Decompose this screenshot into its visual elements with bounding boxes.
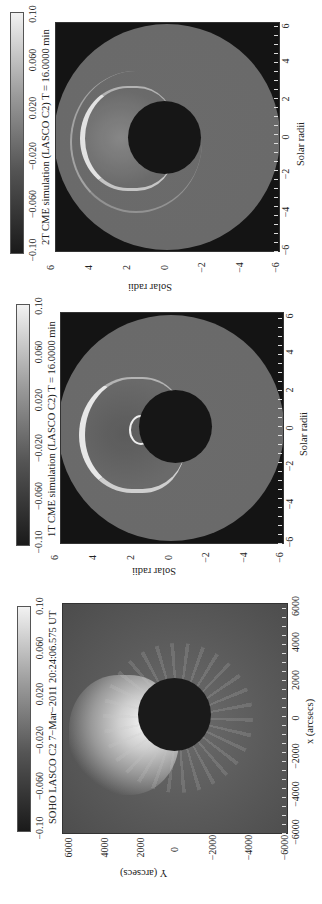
x-tick: 2 — [284, 388, 295, 393]
colorbar-tick: 0.020 — [33, 389, 44, 412]
x-tick: −4000 — [290, 781, 301, 807]
colorbar — [17, 606, 31, 832]
colorbar-tick: −0.020 — [27, 142, 38, 170]
occulting-disk — [128, 101, 201, 174]
colorbar-tick: −0.10 — [34, 816, 45, 839]
colorbar-tick: 0.020 — [27, 97, 38, 120]
colorbar-tick: −0.10 — [33, 530, 44, 553]
colorbar — [10, 12, 24, 254]
occulting-disk — [139, 390, 212, 463]
x-tick: 4 — [280, 59, 291, 64]
x-tick: −2 — [284, 461, 295, 472]
colorbar-tick: −0.020 — [33, 434, 44, 462]
x-axis-label: Solar radii — [295, 122, 306, 166]
colorbar — [16, 304, 30, 546]
x-axis-label: x (arcsecs) — [304, 699, 315, 744]
panel-title: SOHO LASCO C2 7−Mar−2011 20:24:06.575 UT — [47, 611, 58, 824]
x-tick: −4 — [280, 207, 291, 218]
occulting-disk — [138, 678, 211, 751]
colorbar-tick: −0.060 — [33, 482, 44, 510]
panel-title: 2T CME simulation (LASCO C2) T = 16.0000… — [40, 29, 51, 245]
colorbar-tick: 0.060 — [34, 637, 45, 660]
x-tick: 2000 — [290, 670, 301, 690]
plot-area — [55, 22, 280, 252]
plot-area — [60, 312, 284, 544]
colorbar-tick: 0.10 — [33, 297, 44, 315]
panel-title: 1T CME simulation (LASCO C2) T = 16.0000… — [46, 321, 57, 537]
x-tick: −6 — [284, 537, 295, 548]
colorbar-tick: −0.10 — [27, 238, 38, 261]
x-tick-marks — [274, 24, 278, 252]
x-axis-label: Solar radii — [298, 412, 309, 456]
x-tick: 6 — [284, 314, 295, 319]
panel-soho-lasco: −0.10 −0.060 −0.020 0.020 0.060 0.10 SOH… — [0, 584, 322, 904]
x-tick: −4 — [284, 499, 295, 510]
x-tick: 6000 — [290, 596, 301, 616]
colorbar-tick: 0.060 — [33, 341, 44, 364]
x-tick-marks — [282, 605, 286, 834]
x-tick: −6 — [280, 245, 291, 256]
x-tick: 0 — [290, 716, 301, 721]
x-tick: 2 — [280, 97, 291, 102]
plot-area — [62, 603, 288, 834]
colorbar-tick: 0.10 — [27, 5, 38, 23]
x-tick: 0 — [284, 426, 295, 431]
x-tick: −2 — [280, 169, 291, 180]
x-tick: 6 — [280, 24, 291, 29]
colorbar-tick: −0.060 — [27, 190, 38, 218]
panel-2t-simulation: −0.10 −0.060 −0.020 0.020 0.060 0.10 2T … — [0, 0, 322, 292]
panel-1t-simulation: −0.10 −0.060 −0.020 0.020 0.060 0.10 1T … — [0, 292, 322, 584]
x-tick: −6000 — [290, 819, 301, 845]
x-tick: −2000 — [290, 743, 301, 769]
colorbar-tick: 0.10 — [34, 597, 45, 615]
x-tick: 4000 — [290, 632, 301, 652]
colorbar-tick: 0.060 — [27, 49, 38, 72]
x-tick-marks — [278, 314, 282, 544]
colorbar-tick: 0.020 — [34, 683, 45, 706]
x-tick: 0 — [280, 135, 291, 140]
colorbar-tick: −0.020 — [34, 726, 45, 754]
x-tick: 4 — [284, 350, 295, 355]
colorbar-tick: −0.060 — [34, 772, 45, 800]
